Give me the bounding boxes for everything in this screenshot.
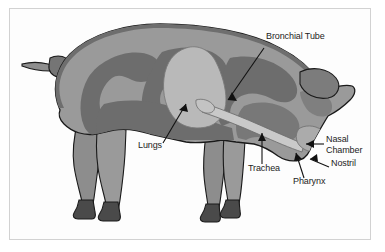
label-lungs: Lungs: [138, 140, 162, 151]
label-nostril: Nostril: [331, 158, 356, 169]
leader-nostril: [310, 159, 329, 167]
hind-legs: [73, 120, 126, 221]
label-nasal-chamber: Nasal Chamber: [326, 134, 362, 155]
label-pharynx: Pharynx: [293, 176, 325, 187]
pig-anatomy-illustration: [0, 0, 385, 252]
label-bronchial-tube: Bronchial Tube: [266, 31, 325, 42]
diagram-page: Bronchial Tube Lungs Trachea Nasal Chamb…: [0, 0, 385, 252]
front-legs: [200, 134, 245, 222]
label-trachea: Trachea: [248, 163, 280, 174]
